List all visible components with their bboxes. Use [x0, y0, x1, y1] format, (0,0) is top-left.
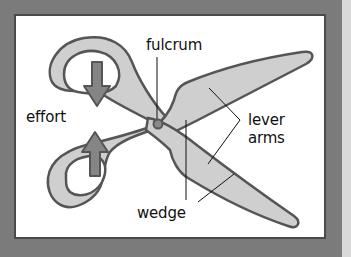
upper-blade [150, 52, 312, 138]
fulcrum-label: fulcrum [146, 38, 202, 53]
lever-leader-lower [208, 120, 240, 164]
side-strip [342, 0, 351, 257]
lever-label: lever [248, 113, 285, 128]
pivot-icon [154, 120, 163, 129]
effort-label: effort [26, 110, 66, 125]
arms-label: arms [248, 131, 285, 146]
wedge-label: wedge [137, 206, 186, 221]
diagram-panel: fulcrum effort lever arms wedge [14, 14, 326, 239]
